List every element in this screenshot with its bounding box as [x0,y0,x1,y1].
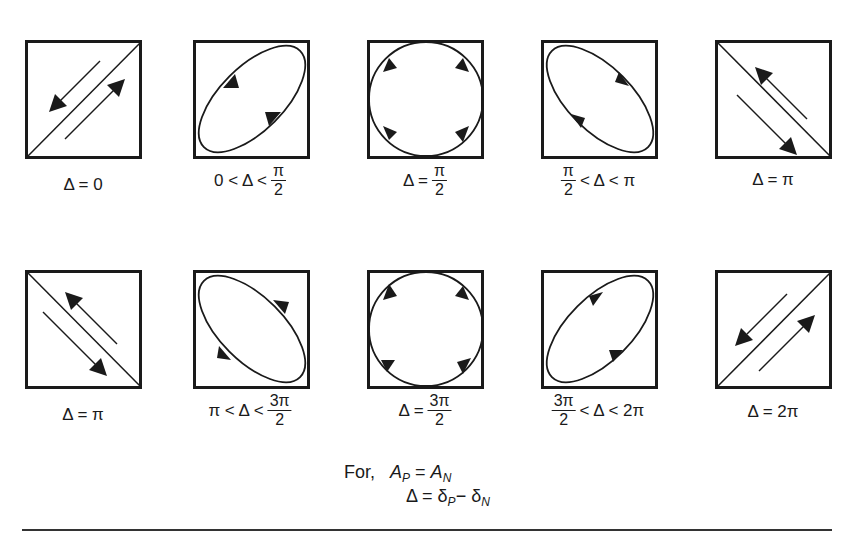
panel-r1-delta-pi [715,40,833,158]
denominator: 2 [274,181,283,198]
fraction: π 2 [561,163,576,198]
numerator: 3π [552,393,576,411]
numerator: 3π [428,393,452,411]
numerator: 3π [268,393,292,411]
label-3pi-2-lt-delta-lt-2pi: 3π 2 < Δ < 2π [552,393,645,428]
horizontal-rule [22,529,832,531]
panel-r1-ellipse-pos [193,40,311,158]
fraction: 3π 2 [428,393,452,428]
panel-r1-delta-0 [25,40,143,158]
for-text: For, [344,462,375,482]
label-pi-lt-delta-lt-3pi-2: π < Δ < 3π 2 [208,393,291,428]
phase-symbol: δ [471,486,481,506]
subscript-p: P [448,495,456,509]
panel-r2-ellipse-neg [193,270,311,388]
fraction: π 2 [432,163,447,198]
fraction: π 2 [271,163,286,198]
fraction: 3π 2 [268,393,292,428]
panel-r2-ellipse-pos [541,270,659,388]
label-pre: π < Δ < [208,401,263,421]
label-delta-pi: Δ = π [752,170,794,190]
phase-symbol: δ [438,486,448,506]
panel-r2-delta-2pi [715,270,833,388]
panel-r2-circle [367,270,485,388]
numerator: π [271,163,286,181]
label-text: Δ = 2π [748,402,799,422]
subscript-p: P [402,471,410,485]
label-pre: Δ = [403,171,428,191]
elliptical-polarization-icon [193,270,311,390]
amplitude-symbol: A [390,462,402,482]
label-delta-pi-2: Δ = π [62,405,104,425]
delta-symbol: Δ [406,486,417,506]
label-delta-0: Δ = 0 [63,175,102,195]
equals: = [415,462,426,482]
linear-polarization-icon [715,270,833,390]
amplitude-symbol: A [431,462,443,482]
subscript-n: N [443,471,452,485]
label-0-lt-delta-lt-pi-2: 0 < Δ < π 2 [214,163,286,198]
elliptical-polarization-icon [193,40,311,160]
elliptical-polarization-icon [541,270,659,390]
label-text: Δ = π [62,405,104,425]
panel-r1-circle [367,40,485,158]
circular-polarization-icon [367,270,485,390]
label-post: < Δ < π [580,171,635,191]
linear-polarization-icon [25,40,143,160]
label-text: Δ = 0 [63,175,102,195]
label-pre: Δ = [398,401,423,421]
label-pre: 0 < Δ < [214,171,267,191]
minus: − [456,486,467,506]
elliptical-polarization-icon [541,40,659,160]
linear-polarization-icon [25,270,143,390]
denominator: 2 [435,411,444,428]
numerator: π [561,163,576,181]
denominator: 2 [435,181,444,198]
panel-r2-delta-pi [25,270,143,388]
denominator: 2 [275,411,284,428]
linear-polarization-icon [715,40,833,160]
label-post: < Δ < 2π [580,401,645,421]
panel-r1-ellipse-neg [541,40,659,158]
label-delta-eq-3pi-2: Δ = 3π 2 [398,393,451,428]
footnote-line-2: Δ = δP− δN [406,486,490,509]
numerator: π [432,163,447,181]
label-text: Δ = π [752,170,794,190]
footnote-line-1: For, AP = AN [344,462,451,485]
circular-polarization-icon [367,40,485,160]
label-pi-2-lt-delta-lt-pi: π 2 < Δ < π [561,163,635,198]
subscript-n: N [481,495,490,509]
fraction: 3π 2 [552,393,576,428]
denominator: 2 [564,181,573,198]
equals: = [422,486,433,506]
label-delta-2pi: Δ = 2π [748,402,799,422]
denominator: 2 [559,411,568,428]
label-delta-eq-pi-2: Δ = π 2 [403,163,447,198]
